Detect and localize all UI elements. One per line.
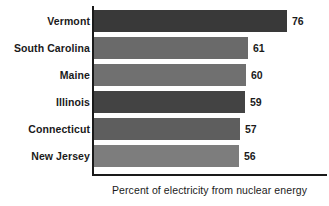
category-label-maine: Maine — [60, 64, 90, 86]
bar-row: New Jersey 56 — [0, 145, 329, 167]
bar-row: Maine 60 — [0, 64, 329, 86]
bar-row: Illinois 59 — [0, 91, 329, 113]
category-label-vermont: Vermont — [47, 10, 90, 32]
value-label-connecticut: 57 — [245, 118, 257, 140]
category-label-connecticut: Connecticut — [28, 118, 90, 140]
value-label-south-carolina: 61 — [253, 37, 265, 59]
x-axis-caption: Percent of electricity from nuclear ener… — [92, 184, 327, 196]
bar-connecticut — [94, 118, 240, 140]
bar-chart: Vermont 76 South Carolina 61 Maine 60 Il… — [0, 0, 329, 206]
bar-row: South Carolina 61 — [0, 37, 329, 59]
value-label-maine: 60 — [251, 64, 263, 86]
bar-row: Connecticut 57 — [0, 118, 329, 140]
bar-south-carolina — [94, 37, 248, 59]
x-axis-line — [92, 174, 327, 176]
value-label-vermont: 76 — [292, 10, 304, 32]
value-label-new-jersey: 56 — [244, 145, 256, 167]
category-label-south-carolina: South Carolina — [14, 37, 90, 59]
value-label-illinois: 59 — [250, 91, 262, 113]
bar-vermont — [94, 10, 287, 32]
bar-illinois — [94, 91, 245, 113]
category-label-new-jersey: New Jersey — [31, 145, 90, 167]
bar-new-jersey — [94, 145, 239, 167]
bar-maine — [94, 64, 246, 86]
bar-row: Vermont 76 — [0, 10, 329, 32]
category-label-illinois: Illinois — [56, 91, 90, 113]
